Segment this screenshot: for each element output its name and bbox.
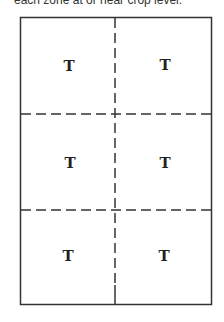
zone-label: T [63, 57, 75, 75]
zone-label: T [159, 56, 171, 74]
zone-grid-diagram: T T T T T T [0, 0, 224, 322]
zone-label: T [158, 247, 170, 265]
zone-label: T [64, 154, 76, 172]
zone-label: T [62, 247, 74, 265]
zone-label: T [159, 154, 171, 172]
outer-border [21, 18, 212, 305]
